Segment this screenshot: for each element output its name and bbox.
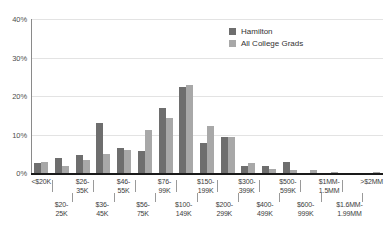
- chart-legend: Hamilton All College Grads: [229, 27, 303, 51]
- x-axis-label-spacer: [93, 178, 114, 195]
- bar: [103, 154, 110, 173]
- x-axis-label-spacer: [153, 201, 173, 218]
- bar-group: [155, 19, 176, 173]
- x-axis-label-spacer: [112, 201, 132, 218]
- bar-group: [135, 19, 156, 173]
- y-axis-tick-label: 30%: [12, 53, 27, 62]
- bar: [159, 108, 166, 173]
- x-axis-tick-label: $1.6MM-1.99MM: [336, 201, 363, 218]
- bar: [34, 163, 41, 173]
- bar-group: [114, 19, 135, 173]
- x-axis-labels: <$20K $26-35K $46-55K $76-99K $150-199K …: [31, 176, 383, 227]
- bar: [283, 162, 290, 173]
- x-axis-tick-label: $76-99K: [154, 178, 175, 195]
- bar: [138, 151, 145, 173]
- bar: [207, 126, 214, 173]
- x-axis-label-spacer: [134, 178, 155, 195]
- bar: [55, 158, 62, 173]
- bar-groups: [31, 19, 383, 173]
- bar: [117, 148, 124, 173]
- x-axis-tick-label: $100-149K: [173, 201, 193, 218]
- bar: [76, 155, 83, 173]
- bar: [145, 130, 152, 173]
- bar: [83, 160, 90, 173]
- bar: [41, 162, 48, 173]
- bar-group: [176, 19, 197, 173]
- bar-group: [93, 19, 114, 173]
- x-axis-tick-label: $600-999K: [295, 201, 315, 218]
- y-axis-tick-label: 20%: [12, 92, 27, 101]
- legend-swatch-icon: [229, 28, 236, 35]
- x-axis-tick-label: $46-55K: [113, 178, 134, 195]
- income-distribution-bar-chart: 0%10%20%30%40% Hamilton All College Grad…: [0, 0, 388, 227]
- bar: [248, 163, 255, 173]
- bar: [200, 143, 207, 173]
- x-axis-label-spacer: [298, 178, 319, 195]
- x-axis-tick-label: $300-399K: [236, 178, 257, 195]
- bar-group: [362, 19, 383, 173]
- y-axis-tick-label: 10%: [12, 130, 27, 139]
- x-axis-label-spacer: [216, 178, 237, 195]
- x-axis-row-top: <$20K $26-35K $46-55K $76-99K $150-199K …: [31, 178, 383, 195]
- x-axis-row-bottom: $20-25K $36-45K $56-75K $100-149K $200-2…: [31, 201, 383, 218]
- y-axis-labels: 0%10%20%30%40%: [0, 0, 31, 175]
- x-axis-tick-label: $36-45K: [92, 201, 112, 218]
- bar-group: [31, 19, 52, 173]
- legend-item-all-college-grads: All College Grads: [229, 39, 303, 48]
- plot-area: [31, 19, 383, 175]
- y-axis-tick-label: 0%: [16, 169, 27, 178]
- x-axis-label-spacer: [72, 201, 92, 218]
- x-axis-label-spacer: [234, 201, 254, 218]
- x-axis-tick-label: $1MM-1.5MM: [319, 178, 340, 195]
- bar-group: [52, 19, 73, 173]
- x-axis-tick-label: $400-499K: [255, 201, 275, 218]
- bar: [228, 137, 235, 173]
- x-axis-label-spacer: [175, 178, 196, 195]
- bar-group: [321, 19, 342, 173]
- bar: [221, 137, 228, 173]
- x-axis-tick-label: $500-599K: [278, 178, 299, 195]
- x-axis-label-spacer: [275, 201, 295, 218]
- bar-group: [72, 19, 93, 173]
- legend-label: Hamilton: [241, 27, 273, 36]
- x-axis-tick-label: $150-199K: [195, 178, 216, 195]
- x-axis-tick-label: $56-75K: [133, 201, 153, 218]
- x-axis-label-spacer: [363, 201, 383, 218]
- x-axis-label-spacer: [257, 178, 278, 195]
- bar: [241, 166, 248, 173]
- x-axis-tick-label: >$2MM: [360, 178, 383, 195]
- bar: [166, 118, 173, 173]
- bar: [179, 87, 186, 173]
- legend-label: All College Grads: [241, 39, 303, 48]
- x-axis-tick-label: $20-25K: [51, 201, 71, 218]
- x-axis-line: [31, 173, 383, 175]
- bar: [262, 166, 269, 173]
- x-axis-label-spacer: [316, 201, 336, 218]
- legend-swatch-icon: [229, 40, 236, 47]
- bar: [186, 85, 193, 173]
- x-axis-tick-label: <$20K: [31, 178, 52, 195]
- x-axis-tick-label: $26-35K: [72, 178, 93, 195]
- y-axis-tick-label: 40%: [12, 15, 27, 24]
- x-axis-tick-label: $200-299K: [214, 201, 234, 218]
- bar-group: [197, 19, 218, 173]
- x-axis-label-spacer: [31, 201, 51, 218]
- bar: [124, 150, 131, 173]
- bar-group: [342, 19, 363, 173]
- x-axis-label-spacer: [52, 178, 73, 195]
- legend-item-hamilton: Hamilton: [229, 27, 303, 36]
- x-axis-label-spacer: [194, 201, 214, 218]
- x-axis-label-spacer: [340, 178, 361, 195]
- bar: [96, 123, 103, 173]
